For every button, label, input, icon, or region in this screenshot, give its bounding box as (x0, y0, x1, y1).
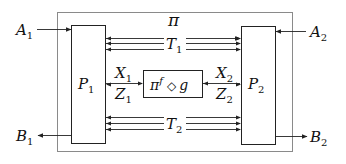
output-b2-label: B2 (309, 128, 327, 148)
channel-t1: T1 (106, 34, 241, 55)
channel-t2: T2 (106, 114, 241, 135)
z2-label: Z2 (215, 85, 233, 105)
x2-label: X2 (215, 64, 233, 84)
output-b1-label: B1 (15, 127, 33, 147)
input-a1-label: A1 (14, 21, 33, 41)
input-a2-label: A2 (308, 23, 327, 43)
outer-protocol-label: π (167, 10, 180, 30)
x1-label: X1 (114, 64, 132, 84)
z1-label: Z1 (114, 85, 132, 105)
protocol-diagram: π P1 P2 A1 A2 B1 B2 T1 T2 πf◇g X1 (0, 0, 346, 164)
